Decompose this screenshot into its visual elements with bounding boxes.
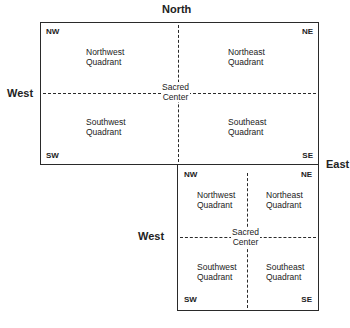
large-sacred-center: Sacred Center — [161, 82, 190, 102]
small-corner-se: SE — [301, 295, 312, 304]
quadrant-line: Southwest — [197, 262, 237, 272]
quadrant-line: Quadrant — [228, 127, 266, 137]
quadrant-line: Northwest — [86, 47, 124, 57]
label-west-small: West — [138, 230, 164, 242]
quadrant-line: Quadrant — [197, 200, 235, 210]
small-corner-sw: SW — [184, 295, 197, 304]
quadrant-line: Quadrant — [86, 127, 126, 137]
small-corner-ne: NE — [301, 170, 312, 179]
center-line: Sacred — [162, 82, 189, 92]
large-corner-se: SE — [302, 151, 313, 160]
large-corner-ne: NE — [302, 27, 313, 36]
small-medicine-wheel-box: NW NE SW SE Northwest Quadrant Northeast… — [177, 164, 319, 311]
large-quadrant-northwest: Northwest Quadrant — [86, 47, 124, 67]
center-line: Center — [162, 92, 189, 102]
quadrant-line: Northwest — [197, 190, 235, 200]
large-corner-sw: SW — [46, 151, 59, 160]
large-quadrant-southwest: Southwest Quadrant — [86, 117, 126, 137]
large-medicine-wheel-box: NW NE SW SE Northwest Quadrant Northeast… — [40, 22, 319, 165]
small-sacred-center: Sacred Center — [231, 227, 260, 247]
small-quadrant-southwest: Southwest Quadrant — [197, 262, 237, 282]
center-line: Sacred — [232, 227, 259, 237]
label-east: East — [326, 158, 349, 170]
quadrant-line: Northeast — [266, 190, 303, 200]
small-quadrant-southeast: Southeast Quadrant — [266, 262, 304, 282]
large-quadrant-southeast: Southeast Quadrant — [228, 117, 266, 137]
quadrant-line: Southwest — [86, 117, 126, 127]
quadrant-line: Southeast — [266, 262, 304, 272]
quadrant-line: Southeast — [228, 117, 266, 127]
quadrant-line: Quadrant — [86, 57, 124, 67]
label-west-large: West — [7, 87, 33, 99]
quadrant-line: Quadrant — [228, 57, 265, 67]
large-quadrant-northeast: Northeast Quadrant — [228, 47, 265, 67]
small-quadrant-northeast: Northeast Quadrant — [266, 190, 303, 210]
quadrant-line: Quadrant — [266, 272, 304, 282]
quadrant-line: Quadrant — [197, 272, 237, 282]
quadrant-line: Quadrant — [266, 200, 303, 210]
large-corner-nw: NW — [46, 27, 59, 36]
small-corner-nw: NW — [184, 170, 197, 179]
quadrant-line: Northeast — [228, 47, 265, 57]
center-line: Center — [232, 237, 259, 247]
small-quadrant-northwest: Northwest Quadrant — [197, 190, 235, 210]
label-north: North — [162, 3, 191, 15]
